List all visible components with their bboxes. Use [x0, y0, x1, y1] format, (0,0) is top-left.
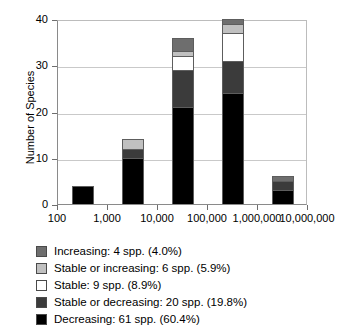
legend-label: Decreasing: 61 spp. (60.4%)	[54, 313, 200, 326]
bar-2	[122, 139, 144, 204]
bar-1	[72, 186, 94, 205]
x-tick-mark	[207, 205, 208, 210]
plot-area	[57, 20, 307, 205]
bar-5	[272, 176, 294, 204]
x-tick-label: 10,000,000	[272, 212, 342, 224]
legend-item-stable-or-increasing: Stable or increasing: 6 spp. (5.9%)	[36, 260, 336, 277]
bar-segment-stable-or-decreasing	[222, 61, 244, 93]
legend-item-stable: Stable: 9 spp. (8.9%)	[36, 277, 336, 294]
legend-swatch-icon-increasing	[36, 246, 47, 257]
legend-label: Increasing: 4 spp. (4.0%)	[54, 245, 182, 258]
legend-swatch-icon-stable-or-decreasing	[36, 297, 47, 308]
chart-legend: Increasing: 4 spp. (4.0%)Stable or incre…	[36, 243, 336, 328]
bar-4	[222, 19, 244, 204]
x-tick-mark	[307, 205, 308, 210]
bar-segment-increasing	[172, 38, 194, 52]
legend-label: Stable or decreasing: 20 spp. (19.8%)	[54, 296, 247, 309]
y-tick-label: 20	[0, 107, 48, 118]
bar-segment-stable-or-decreasing	[122, 149, 144, 158]
x-tick-mark	[107, 205, 108, 210]
stacked-bar-chart: Number of Species 010203040 1001,00010,0…	[0, 0, 346, 335]
bar-segment-decreasing	[172, 107, 194, 204]
bar-segment-decreasing	[122, 158, 144, 204]
bar-segment-stable-or-increasing	[122, 139, 144, 148]
bar-segment-stable-or-decreasing	[272, 181, 294, 190]
bar-segment-stable	[172, 56, 194, 70]
y-tick-label: 30	[0, 60, 48, 71]
x-tick-mark	[157, 205, 158, 210]
legend-swatch-icon-decreasing	[36, 314, 47, 325]
bar-segment-decreasing	[272, 190, 294, 204]
bar-segment-stable	[222, 33, 244, 61]
legend-item-decreasing: Decreasing: 61 spp. (60.4%)	[36, 311, 336, 328]
y-tick-label: 40	[0, 14, 48, 25]
y-tick-label: 10	[0, 153, 48, 164]
legend-label: Stable or increasing: 6 spp. (5.9%)	[54, 262, 230, 275]
bar-segment-decreasing	[72, 186, 94, 205]
legend-item-increasing: Increasing: 4 spp. (4.0%)	[36, 243, 336, 260]
bar-3	[172, 38, 194, 205]
x-tick-mark	[57, 205, 58, 210]
legend-label: Stable: 9 spp. (8.9%)	[54, 279, 161, 292]
x-tick-mark	[257, 205, 258, 210]
legend-swatch-icon-stable-or-increasing	[36, 263, 47, 274]
bar-segment-stable-or-increasing	[222, 24, 244, 33]
bar-segment-stable-or-decreasing	[172, 70, 194, 107]
legend-item-stable-or-decreasing: Stable or decreasing: 20 spp. (19.8%)	[36, 294, 336, 311]
y-tick-label: 0	[0, 199, 48, 210]
bar-segment-decreasing	[222, 93, 244, 204]
legend-swatch-icon-stable	[36, 280, 47, 291]
